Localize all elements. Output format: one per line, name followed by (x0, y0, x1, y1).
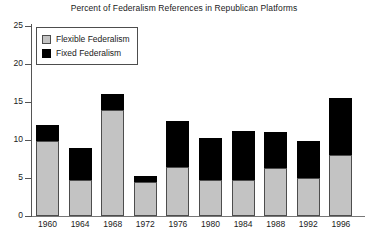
legend-item-label: Flexible Federalism (56, 34, 130, 44)
bar-segment-fixed-federalism[interactable] (264, 132, 287, 168)
bar-segment-fixed-federalism[interactable] (199, 138, 222, 180)
chart-legend: Flexible FederalismFixed Federalism (36, 27, 138, 65)
bar-group[interactable] (264, 0, 287, 216)
y-axis-tick (25, 140, 32, 141)
legend-item-label: Fixed Federalism (56, 48, 121, 58)
bar-segment-flexible-federalism[interactable] (166, 167, 189, 216)
y-axis-tick-label: 0 (0, 211, 23, 220)
y-axis-tick-label: 15 (0, 97, 23, 106)
bar-segment-fixed-federalism[interactable] (232, 131, 255, 180)
bar-segment-flexible-federalism[interactable] (264, 168, 287, 216)
bar-segment-fixed-federalism[interactable] (297, 141, 320, 178)
bar-segment-flexible-federalism[interactable] (232, 180, 255, 216)
bar-segment-fixed-federalism[interactable] (166, 121, 189, 167)
y-axis-tick (25, 216, 32, 217)
y-axis-tick-label: 5 (0, 173, 23, 182)
legend-item[interactable]: Fixed Federalism (42, 46, 130, 60)
y-axis-tick (25, 64, 32, 65)
y-axis-tick-label: 20 (0, 59, 23, 68)
bar-group[interactable] (329, 0, 352, 216)
y-axis-tick-label: 10 (0, 135, 23, 144)
bar-segment-flexible-federalism[interactable] (36, 141, 59, 216)
y-axis-tick-label: 25 (0, 21, 23, 30)
bar-group[interactable] (297, 0, 320, 216)
bar-segment-fixed-federalism[interactable] (329, 98, 352, 155)
bar-segment-fixed-federalism[interactable] (36, 125, 59, 141)
bar-segment-fixed-federalism[interactable] (134, 176, 157, 181)
bar-segment-fixed-federalism[interactable] (69, 148, 92, 180)
bar-segment-flexible-federalism[interactable] (69, 180, 92, 216)
federalism-references-chart: Percent of Federalism References in Repu… (0, 0, 368, 235)
bar-group[interactable] (166, 0, 189, 216)
bar-segment-flexible-federalism[interactable] (329, 155, 352, 216)
bar-segment-flexible-federalism[interactable] (199, 180, 222, 216)
bar-segment-flexible-federalism[interactable] (134, 182, 157, 216)
y-axis-line (31, 24, 32, 217)
y-axis-tick (25, 178, 32, 179)
y-axis-tick (25, 26, 32, 27)
x-axis-tick-label: 1996 (321, 220, 361, 229)
y-axis-tick (25, 102, 32, 103)
bar-group[interactable] (199, 0, 222, 216)
x-axis-line (31, 216, 365, 217)
legend-item[interactable]: Flexible Federalism (42, 32, 130, 46)
fixed-swatch (42, 49, 51, 58)
flexible-swatch (42, 35, 51, 44)
bar-segment-flexible-federalism[interactable] (101, 110, 124, 216)
bar-segment-fixed-federalism[interactable] (101, 94, 124, 110)
bar-segment-flexible-federalism[interactable] (297, 178, 320, 216)
bar-group[interactable] (232, 0, 255, 216)
